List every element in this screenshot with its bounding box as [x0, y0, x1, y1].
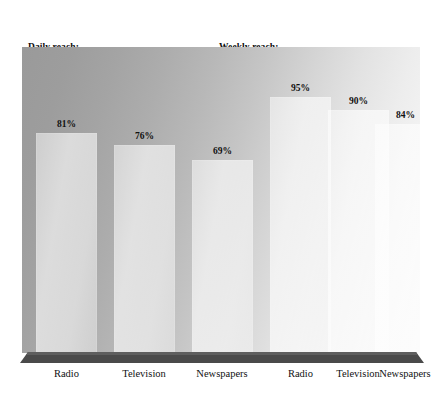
plot-area: [22, 47, 420, 353]
bar-daily-television: [114, 145, 175, 353]
value-label-weekly-newspapers: 84%: [375, 110, 436, 120]
category-label-weekly-newspapers: Newspapers: [367, 368, 443, 379]
value-label-daily-radio: 81%: [36, 119, 97, 129]
category-label-daily-radio: Radio: [36, 368, 97, 379]
bar-daily-radio: [36, 133, 97, 353]
category-label-daily-newspapers: Newspapers: [184, 368, 260, 379]
category-label-daily-television: Television: [108, 368, 180, 379]
chart-floor-shape: [20, 352, 424, 363]
value-label-weekly-radio: 95%: [270, 83, 331, 93]
value-label-daily-television: 76%: [114, 131, 175, 141]
bar-weekly-newspapers: [375, 124, 420, 353]
value-label-daily-newspapers: 69%: [192, 146, 253, 156]
value-label-weekly-television: 90%: [328, 96, 389, 106]
chart-floor: [20, 352, 424, 363]
bar-chart: Daily reach: Adults 18 + Weekly reach: A…: [0, 0, 443, 397]
bar-weekly-radio: [270, 97, 331, 353]
bar-daily-newspapers: [192, 160, 253, 353]
